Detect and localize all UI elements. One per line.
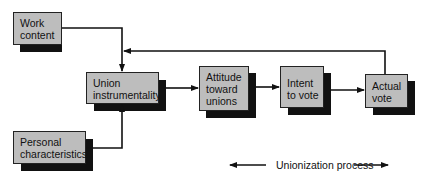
edge-work-to-union [62,28,122,71]
edge-feedback-actual-to-union [124,51,385,74]
edge-personal-to-union [86,105,122,148]
connectors [0,0,427,183]
